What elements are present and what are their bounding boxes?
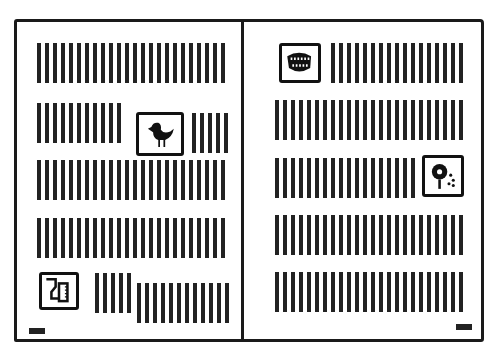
text-line bbox=[85, 160, 89, 200]
text-line bbox=[69, 160, 73, 200]
text-line bbox=[61, 218, 65, 258]
text-line bbox=[339, 272, 343, 312]
text-line bbox=[165, 43, 169, 83]
text-line bbox=[173, 218, 177, 258]
text-line bbox=[347, 43, 351, 83]
text-line bbox=[355, 215, 359, 255]
text-line bbox=[387, 158, 391, 198]
text-line bbox=[283, 100, 287, 140]
text-lines bbox=[275, 215, 463, 255]
text-line bbox=[216, 113, 220, 153]
text-line bbox=[101, 103, 105, 143]
text-line bbox=[387, 43, 391, 83]
text-line bbox=[371, 272, 375, 312]
text-line bbox=[93, 218, 97, 258]
text-line bbox=[371, 215, 375, 255]
left-row-1 bbox=[37, 43, 225, 83]
text-line bbox=[37, 103, 41, 143]
text-line bbox=[200, 113, 204, 153]
text-line bbox=[315, 158, 319, 198]
text-line bbox=[61, 103, 65, 143]
mouth-teeth-icon bbox=[279, 43, 321, 83]
text-line bbox=[435, 272, 439, 312]
text-line bbox=[192, 113, 196, 153]
text-line bbox=[323, 158, 327, 198]
text-line bbox=[193, 283, 197, 323]
text-line bbox=[95, 273, 99, 313]
text-lines bbox=[37, 43, 225, 83]
text-line bbox=[117, 218, 121, 258]
text-line bbox=[387, 272, 391, 312]
text-line bbox=[331, 215, 335, 255]
text-line bbox=[299, 215, 303, 255]
text-line bbox=[427, 43, 431, 83]
right-row-4 bbox=[275, 215, 463, 255]
text-line bbox=[419, 43, 423, 83]
text-line bbox=[85, 103, 89, 143]
left-row-5b bbox=[137, 283, 229, 323]
text-line bbox=[153, 283, 157, 323]
text-line bbox=[443, 215, 447, 255]
text-line bbox=[111, 273, 115, 313]
text-line bbox=[45, 103, 49, 143]
text-line bbox=[149, 218, 153, 258]
text-line bbox=[451, 43, 455, 83]
text-line bbox=[291, 100, 295, 140]
text-line bbox=[355, 272, 359, 312]
text-line bbox=[355, 158, 359, 198]
text-line bbox=[283, 215, 287, 255]
right-row-2 bbox=[275, 100, 463, 140]
text-lines bbox=[331, 43, 463, 83]
text-line bbox=[299, 272, 303, 312]
text-line bbox=[217, 283, 221, 323]
text-line bbox=[197, 160, 201, 200]
text-line bbox=[275, 272, 279, 312]
right-row-1 bbox=[331, 43, 463, 83]
text-line bbox=[451, 100, 455, 140]
text-line bbox=[93, 103, 97, 143]
text-line bbox=[177, 283, 181, 323]
text-line bbox=[53, 43, 57, 83]
text-line bbox=[451, 272, 455, 312]
text-line bbox=[419, 215, 423, 255]
text-line bbox=[379, 43, 383, 83]
text-line bbox=[189, 218, 193, 258]
text-line bbox=[61, 160, 65, 200]
text-line bbox=[37, 160, 41, 200]
text-line bbox=[459, 43, 463, 83]
text-line bbox=[443, 43, 447, 83]
text-line bbox=[205, 43, 209, 83]
text-line bbox=[221, 160, 225, 200]
text-line bbox=[347, 100, 351, 140]
text-line bbox=[379, 272, 383, 312]
text-line bbox=[213, 160, 217, 200]
text-line bbox=[209, 283, 213, 323]
text-line bbox=[221, 218, 225, 258]
text-line bbox=[291, 272, 295, 312]
text-line bbox=[205, 218, 209, 258]
text-line bbox=[395, 215, 399, 255]
text-line bbox=[61, 43, 65, 83]
text-line bbox=[307, 100, 311, 140]
text-line bbox=[307, 215, 311, 255]
text-line bbox=[69, 43, 73, 83]
text-line bbox=[117, 103, 121, 143]
text-line bbox=[119, 273, 123, 313]
text-line bbox=[157, 43, 161, 83]
text-line bbox=[145, 283, 149, 323]
text-line bbox=[101, 218, 105, 258]
text-line bbox=[275, 100, 279, 140]
text-line bbox=[133, 218, 137, 258]
text-line bbox=[165, 160, 169, 200]
text-line bbox=[173, 160, 177, 200]
text-line bbox=[371, 100, 375, 140]
text-line bbox=[339, 100, 343, 140]
text-line bbox=[213, 43, 217, 83]
text-line bbox=[93, 160, 97, 200]
text-line bbox=[141, 218, 145, 258]
text-line bbox=[307, 158, 311, 198]
text-line bbox=[411, 158, 415, 198]
text-line bbox=[459, 100, 463, 140]
text-line bbox=[224, 113, 228, 153]
text-line bbox=[189, 43, 193, 83]
